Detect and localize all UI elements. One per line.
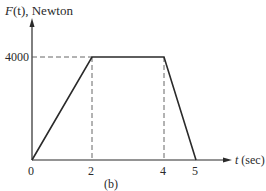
x-axis-var: t	[235, 153, 238, 167]
x-axis-arrow-icon	[223, 158, 232, 163]
x-axis-unit: (sec)	[241, 153, 264, 167]
x-tick-4: 4	[160, 165, 166, 177]
x-tick-5: 5	[192, 165, 198, 177]
figure-caption: (b)	[104, 178, 118, 190]
y-axis-label: F(t), Newton	[5, 5, 73, 17]
y-tick-4000: 4000	[5, 51, 29, 63]
y-axis-prefix: F	[5, 3, 13, 18]
x-axis-label: t (sec)	[235, 154, 265, 166]
x-tick-2: 2	[88, 165, 94, 177]
force-series-line	[32, 57, 196, 160]
x-tick-0: 0	[28, 165, 34, 177]
force-time-plot	[0, 0, 266, 191]
y-axis-unit: , Newton	[25, 3, 73, 18]
y-axis-var: (t)	[13, 3, 25, 18]
y-axis-arrow-icon	[30, 18, 35, 27]
